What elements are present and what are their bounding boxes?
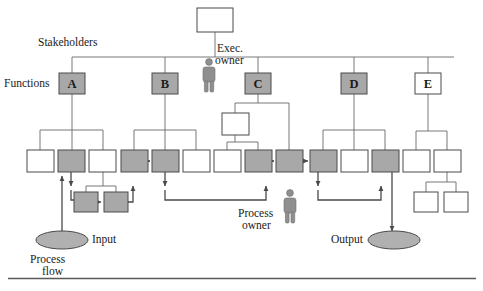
box-label: C xyxy=(253,77,262,91)
process-box-e-left xyxy=(403,150,430,172)
function-box-d: D xyxy=(341,73,367,94)
function-box-e: E xyxy=(415,73,441,94)
process-box-c-sub xyxy=(222,113,249,135)
process-box-c-left xyxy=(214,150,241,172)
box-label: A xyxy=(67,77,76,91)
process-box-a-right xyxy=(89,150,116,172)
box-label: E xyxy=(424,77,432,91)
process-flow-label-line2: flow xyxy=(42,265,63,277)
process-box-d-center xyxy=(341,150,368,172)
process-owner-label-line1: Process xyxy=(238,207,273,219)
process-box-a-left xyxy=(27,150,54,172)
top-box xyxy=(197,8,233,32)
process-box-a-center xyxy=(58,150,85,172)
function-box-b: B xyxy=(152,73,178,94)
process-box-e-sub-left xyxy=(414,192,438,212)
input-label: Input xyxy=(92,233,116,245)
function-box-a: A xyxy=(59,73,85,94)
stakeholders-label: Stakeholders xyxy=(38,36,97,48)
exec-owner-label-line2: owner xyxy=(215,54,244,66)
process-box-b-right xyxy=(183,150,210,172)
box-label: B xyxy=(161,77,169,91)
output-label: Output xyxy=(331,233,363,245)
functions-label: Functions xyxy=(4,77,49,89)
process-box-b-center xyxy=(152,150,179,172)
process-box-e-sub-right xyxy=(444,192,468,212)
output-ellipse xyxy=(368,231,420,249)
process-box-e-right xyxy=(434,150,461,172)
process-owner-figure xyxy=(284,190,296,223)
function-box-c: C xyxy=(245,73,271,94)
process-box-c-mid xyxy=(245,150,272,172)
box-label: D xyxy=(349,77,358,91)
process-box-a-low-left xyxy=(74,192,98,212)
exec-owner-label-line1: Exec. xyxy=(217,42,243,54)
diagram-canvas: ABCDE Stakeholders Functions Exec. owner… xyxy=(0,0,483,291)
process-box-b-left xyxy=(121,150,148,172)
process-box-a-low-right xyxy=(104,192,128,212)
process-owner-label-line2: owner xyxy=(242,219,271,231)
process-box-d-right xyxy=(372,150,399,172)
exec-owner-figure xyxy=(203,59,215,92)
process-flow-label-line1: Process xyxy=(30,253,65,265)
input-ellipse xyxy=(36,231,88,249)
process-box-c-right xyxy=(276,150,303,172)
process-box-d-left xyxy=(310,150,337,172)
